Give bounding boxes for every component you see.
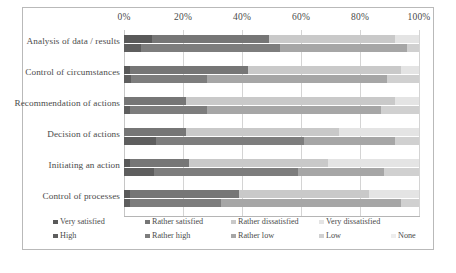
bar-segment — [124, 128, 186, 136]
category-label: Initiating an action — [49, 160, 120, 170]
bar-segment — [124, 75, 131, 83]
bar-segment — [298, 168, 384, 176]
legend-item[interactable]: Very satisfied — [53, 218, 105, 226]
bar-segment — [124, 44, 141, 52]
legend-label: High — [60, 232, 76, 240]
bar-segment — [381, 106, 419, 114]
bar-segment — [395, 137, 419, 145]
bar-segment — [156, 137, 304, 145]
legend-swatch-icon — [53, 220, 58, 225]
stacked-bar-satisfaction — [124, 128, 419, 136]
legend-label: Rather satisfied — [152, 218, 203, 226]
gridline-0 — [124, 30, 125, 216]
bar-segment — [130, 190, 239, 198]
bar-segment — [124, 35, 152, 43]
gridline-80 — [360, 30, 361, 216]
legend-item[interactable]: Rather satisfied — [145, 218, 203, 226]
bar-segment — [154, 168, 299, 176]
x-axis-tick-80: 80% — [351, 12, 369, 22]
category-label: Decision of actions — [47, 129, 120, 139]
legend-item[interactable]: Rather high — [145, 232, 190, 240]
bar-segment — [387, 75, 419, 83]
gridline-60 — [301, 30, 302, 216]
legend-label: None — [398, 232, 416, 240]
x-axis-tick-labels: 0%20%40%60%80%100% — [23, 12, 433, 28]
stacked-bar-influence — [124, 199, 419, 207]
x-axis-tick-100: 100% — [408, 12, 431, 22]
stacked-bar-influence — [124, 168, 419, 176]
bar-group — [124, 128, 419, 148]
bar-segment — [328, 159, 419, 167]
bar-segment — [131, 75, 206, 83]
x-axis-tick-20: 20% — [174, 12, 192, 22]
category-label: Control of processes — [42, 191, 120, 201]
legend-label: Low — [326, 232, 341, 240]
bar-segment — [401, 66, 419, 74]
legend-label: Rather low — [238, 232, 274, 240]
legend-item[interactable]: High — [53, 232, 76, 240]
bar-segment — [141, 44, 281, 52]
category-label: Control of circumstances — [25, 67, 120, 77]
legend-item[interactable]: Low — [319, 232, 341, 240]
bar-segment — [339, 128, 419, 136]
legend-label: Rather high — [152, 232, 190, 240]
bar-segment — [186, 97, 395, 105]
bar-segment — [384, 168, 419, 176]
legend-swatch-icon — [319, 234, 324, 239]
bar-segment — [207, 106, 381, 114]
chart-legend: Very satisfiedRather satisfiedRather dis… — [23, 218, 433, 250]
stacked-bar-satisfaction — [124, 66, 419, 74]
x-axis-tick-40: 40% — [233, 12, 251, 22]
bar-segment — [407, 44, 419, 52]
bar-segment — [130, 106, 207, 114]
legend-item[interactable]: Very dissatisfied — [319, 218, 380, 226]
legend-swatch-icon — [53, 234, 58, 239]
category-label: Recommendation of actions — [14, 98, 120, 108]
legend-item[interactable]: Rather dissatisfied — [231, 218, 299, 226]
bar-segment — [207, 75, 387, 83]
legend-label: Rather dissatisfied — [238, 218, 299, 226]
bar-segment — [130, 66, 248, 74]
legend-swatch-icon — [319, 220, 324, 225]
gridline-100 — [419, 30, 420, 216]
legend-row-satisfaction: Very satisfiedRather satisfiedRather dis… — [23, 218, 433, 232]
legend-swatch-icon — [145, 234, 150, 239]
chart-frame: 0%20%40%60%80%100% Analysis of data / re… — [22, 7, 434, 250]
bar-group — [124, 159, 419, 179]
category-label: Analysis of data / results — [27, 36, 120, 46]
bar-segment — [395, 97, 419, 105]
plot-area — [124, 30, 419, 216]
bar-segment — [221, 199, 401, 207]
legend-row-influence: HighRather highRather lowLowNone — [23, 232, 433, 246]
bar-segment — [239, 190, 369, 198]
legend-item[interactable]: None — [391, 232, 416, 240]
stacked-bar-satisfaction — [124, 159, 419, 167]
category-axis-labels: Analysis of data / resultsControl of cir… — [23, 30, 120, 216]
bar-segment — [395, 35, 419, 43]
bar-segment — [280, 44, 407, 52]
bar-segment — [130, 159, 189, 167]
gridline-20 — [183, 30, 184, 216]
bar-group — [124, 35, 419, 55]
stacked-bar-satisfaction — [124, 97, 419, 105]
x-axis-tick-0: 0% — [117, 12, 130, 22]
legend-swatch-icon — [231, 234, 236, 239]
stacked-bar-influence — [124, 137, 419, 145]
legend-swatch-icon — [391, 234, 396, 239]
bar-segment — [369, 190, 419, 198]
bar-group — [124, 66, 419, 86]
bar-group — [124, 97, 419, 117]
bar-segment — [186, 128, 339, 136]
legend-label: Very dissatisfied — [326, 218, 380, 226]
bar-segment — [152, 35, 269, 43]
legend-item[interactable]: Rather low — [231, 232, 274, 240]
bar-segment — [304, 137, 395, 145]
bar-segment — [248, 66, 401, 74]
bar-segment — [124, 168, 154, 176]
bar-segment — [269, 35, 396, 43]
bar-segment — [124, 137, 156, 145]
x-axis-tick-60: 60% — [292, 12, 310, 22]
bar-segment — [189, 159, 328, 167]
stacked-bar-influence — [124, 44, 419, 52]
legend-label: Very satisfied — [60, 218, 105, 226]
